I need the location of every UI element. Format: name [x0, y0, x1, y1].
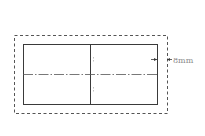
dimension-label: 8mm — [173, 56, 194, 65]
layout-diagram: 8mm — [0, 0, 205, 136]
dimension-arrow-left-icon — [154, 58, 157, 61]
